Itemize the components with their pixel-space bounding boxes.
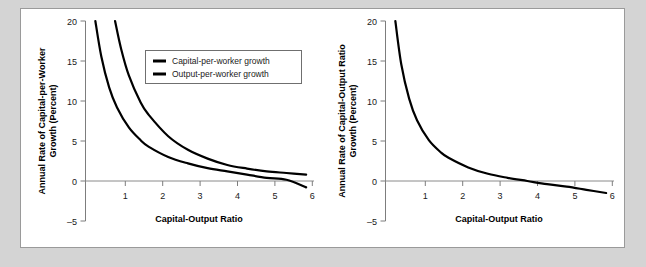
right-x-axis-title: Capital-Output Ratio: [455, 214, 543, 224]
right-xtick-label-5: 5: [572, 191, 577, 201]
right-series-capital-output-ratio-curve: [395, 21, 606, 193]
left-x-axis-title: Capital-Output Ratio: [155, 214, 243, 224]
left-ytick-label-15: 15: [67, 57, 77, 67]
left-xtick-label-6: 6: [310, 191, 315, 201]
left-series-capital-per-worker-curve: [95, 21, 306, 187]
figure-root: 20 15 10 5 0 –5 1 2 3 4 5: [0, 0, 646, 267]
left-ytick-label-0: 0: [72, 177, 77, 187]
right-xtick-label-1: 1: [423, 191, 428, 201]
right-y-axis-title-line1: Annual Rate of Capital-Output Ratio: [337, 44, 347, 198]
chart-right-svg: 20 15 10 5 0 –5 1 2 3 4 5 6: [323, 9, 625, 247]
figure-panel: 20 15 10 5 0 –5 1 2 3 4 5: [20, 8, 625, 248]
right-y-axis-title-line2: Growth (Percent): [348, 84, 358, 157]
right-xtick-label-6: 6: [610, 191, 615, 201]
right-ytick-label-0: 0: [372, 177, 377, 187]
right-ytick-label-15: 15: [367, 57, 377, 67]
chart-right: 20 15 10 5 0 –5 1 2 3 4 5 6: [323, 9, 625, 247]
right-ytick-label-5: 5: [372, 137, 377, 147]
chart-left: 20 15 10 5 0 –5 1 2 3 4 5: [23, 9, 325, 247]
left-xtick-label-1: 1: [123, 191, 128, 201]
left-series-output-per-worker-curve: [115, 21, 306, 175]
right-xtick-label-2: 2: [460, 191, 465, 201]
right-ytick-label-10: 10: [367, 97, 377, 107]
right-ytick-label-minus5: –5: [367, 217, 377, 227]
left-xtick-label-3: 3: [198, 191, 203, 201]
left-xtick-label-2: 2: [160, 191, 165, 201]
left-ytick-label-minus5: –5: [67, 217, 77, 227]
left-ytick-label-10: 10: [67, 97, 77, 107]
legend: Capital-per-worker growth Output-per-wor…: [146, 51, 302, 84]
chart-left-svg: 20 15 10 5 0 –5 1 2 3 4 5: [23, 9, 325, 247]
left-ytick-label-20: 20: [67, 17, 77, 27]
left-xtick-label-4: 4: [235, 191, 240, 201]
left-y-axis-title-line1: Annual Rate of Capital-per-Worker: [37, 47, 47, 194]
left-ytick-label-5: 5: [72, 137, 77, 147]
right-xtick-label-4: 4: [535, 191, 540, 201]
right-xtick-label-3: 3: [498, 191, 503, 201]
left-y-axis-title-line2: Growth (Percent): [48, 84, 58, 157]
right-ytick-label-20: 20: [367, 17, 377, 27]
legend-label-capital-per-worker: Capital-per-worker growth: [172, 56, 270, 66]
left-xtick-label-5: 5: [272, 191, 277, 201]
legend-label-output-per-worker: Output-per-worker growth: [172, 69, 269, 79]
